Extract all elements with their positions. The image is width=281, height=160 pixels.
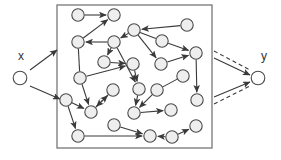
graph-node-n19[interactable]: [85, 106, 97, 118]
graph-node-n7[interactable]: [156, 35, 168, 47]
graph-node-n16[interactable]: [151, 84, 163, 96]
graph-node-n20[interactable]: [128, 107, 140, 119]
edge-n5-n10: [111, 62, 126, 63]
edge-n13-n16: [163, 79, 177, 87]
edge-n3-n2: [83, 20, 107, 38]
edge-n4-n5: [107, 48, 111, 55]
graph-node-n12[interactable]: [74, 72, 86, 84]
edge-n6-n11: [138, 35, 156, 58]
edge-n23-n24: [120, 127, 142, 134]
graph-node-n11[interactable]: [155, 58, 167, 70]
edge-n19-n15: [96, 96, 108, 108]
graph-node-n1[interactable]: [72, 9, 84, 21]
graph-node-n8[interactable]: [181, 19, 193, 31]
graph-node-n17[interactable]: [191, 94, 203, 106]
graph-node-n5[interactable]: [98, 56, 110, 68]
edge-n20-n21: [141, 111, 164, 113]
edge-n3-n12: [78, 49, 79, 72]
edge-n12-n19: [82, 84, 89, 104]
graph-node-n14[interactable]: [133, 83, 145, 95]
external-edge-box-top-right-to-y: [214, 58, 250, 75]
edge-n18-n22: [68, 106, 75, 128]
graph-node-n25[interactable]: [166, 131, 178, 143]
graph-node-y[interactable]: [251, 71, 265, 85]
graph-node-n23[interactable]: [108, 119, 120, 131]
node-label-y: y: [261, 49, 267, 63]
graph-node-n4[interactable]: [108, 36, 120, 48]
graph-node-n15[interactable]: [107, 84, 119, 96]
graph-node-n9[interactable]: [190, 47, 202, 59]
edge-n8-n6: [142, 26, 181, 30]
node-label-x: x: [18, 49, 24, 63]
edge-n7-n9: [168, 43, 188, 50]
graph-node-x[interactable]: [13, 71, 27, 85]
graph-node-n18[interactable]: [60, 94, 72, 106]
edge-n16-n20: [140, 95, 153, 108]
edge-n25-n26: [178, 129, 189, 134]
graph-node-n26[interactable]: [190, 120, 202, 132]
graph-node-n3[interactable]: [72, 36, 84, 48]
diagram-canvas: xy: [0, 0, 281, 160]
edge-n10-n14: [135, 70, 138, 81]
graph-node-n21[interactable]: [165, 104, 177, 116]
external-edge-x-to-box-top: [30, 50, 57, 70]
graph-node-n2[interactable]: [108, 9, 120, 21]
network-diagram: xy: [0, 0, 281, 160]
external-edge-box-bottom-right-to-y: [214, 82, 250, 97]
edge-n11-n9: [167, 55, 188, 62]
graph-node-n10[interactable]: [127, 58, 139, 70]
graph-node-n13[interactable]: [177, 70, 189, 82]
edge-n6-n4: [121, 33, 129, 38]
edge-n18-n19: [72, 103, 84, 109]
external-edge-x-to-n18: [30, 86, 60, 99]
graph-node-n6[interactable]: [128, 24, 140, 36]
edge-n14-n20: [136, 95, 138, 105]
edge-n6-n7: [140, 32, 156, 38]
graph-node-n22[interactable]: [72, 130, 84, 142]
edge-n9-n17: [196, 60, 197, 93]
graph-node-n24[interactable]: [144, 130, 156, 142]
